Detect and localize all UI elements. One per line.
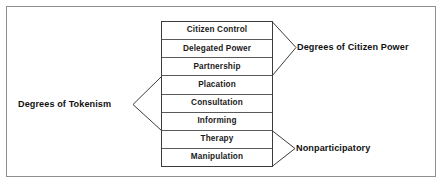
group-label-degrees-of-citizen-power: Degrees of Citizen Power	[297, 43, 409, 52]
ladder-rung[interactable]: Manipulation	[162, 149, 272, 166]
rung-label: Therapy	[201, 135, 234, 143]
group-label-nonparticipatory: Nonparticipatory	[296, 144, 370, 153]
ladder-rung[interactable]: Delegated Power	[162, 40, 272, 58]
rung-label: Consultation	[191, 99, 243, 107]
rung-label: Manipulation	[191, 153, 243, 161]
ladder-rung[interactable]: Consultation	[162, 95, 272, 113]
rung-label: Informing	[197, 117, 236, 125]
rung-label: Partnership	[193, 63, 240, 71]
ladder-rung[interactable]: Informing	[162, 113, 272, 131]
rung-label: Placation	[198, 81, 236, 89]
rung-label: Delegated Power	[183, 45, 251, 53]
ladder-rung[interactable]: Placation	[162, 76, 272, 94]
ladder-of-participation-diagram: Citizen Control Delegated Power Partners…	[0, 0, 446, 186]
rung-label: Citizen Control	[187, 26, 247, 34]
ladder-rung[interactable]: Partnership	[162, 58, 272, 76]
ladder-rung[interactable]: Citizen Control	[162, 22, 272, 40]
group-label-degrees-of-tokenism: Degrees of Tokenism	[18, 100, 111, 109]
participation-ladder: Citizen Control Delegated Power Partners…	[161, 21, 273, 167]
ladder-rung[interactable]: Therapy	[162, 131, 272, 149]
